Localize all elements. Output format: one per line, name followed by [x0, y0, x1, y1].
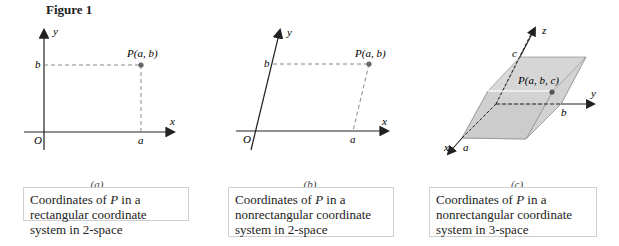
z-axis [520, 28, 535, 57]
front-face [462, 91, 553, 139]
y-label-c: y [590, 87, 596, 99]
p-label-a: P(a, b) [126, 47, 158, 60]
origin-label-b: O [243, 133, 251, 145]
a-label-c: a [463, 141, 469, 153]
p-label-b: P(a, b) [354, 47, 386, 60]
caption-c: Coordinates of P in a nonrectangular coo… [429, 187, 597, 237]
panel-a-diagram: y x O b a P(a, b) [24, 25, 175, 150]
point-p-a [138, 62, 143, 67]
a-label-a: a [138, 134, 144, 146]
caption-b: Coordinates of P in a nonrectangular coo… [228, 187, 394, 237]
b-label-c: b [561, 106, 567, 118]
panel-b-diagram: y x O b a P(a, b) [236, 26, 388, 150]
point-p-b [366, 61, 371, 66]
b-label-b: b [264, 57, 270, 69]
c-label-c: c [512, 47, 517, 59]
panel-c-diagram: z y x c b a P(a, b, c) [443, 24, 596, 154]
x-label-c: x [443, 141, 449, 153]
b-label-a: b [35, 58, 41, 70]
y-axis-b [251, 30, 280, 150]
z-label-c: z [541, 24, 547, 36]
y-label-a: y [52, 25, 58, 37]
origin-label-a: O [34, 134, 42, 146]
x-axis-c [448, 138, 462, 154]
caption-a: Coordinates of P in a rectangular coordi… [23, 187, 189, 221]
y-label-b: y [286, 26, 292, 38]
dashed-a-b [353, 64, 369, 131]
x-label-b: x [381, 115, 387, 127]
p-label-c: P(a, b, c) [517, 74, 559, 87]
x-label-a: x [169, 115, 175, 127]
a-label-b: a [350, 133, 356, 145]
point-p-c [549, 89, 554, 94]
